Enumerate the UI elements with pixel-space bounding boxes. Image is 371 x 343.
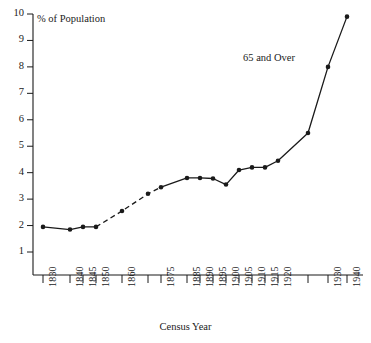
data-point-marker <box>198 176 203 181</box>
data-point-marker <box>224 182 229 187</box>
data-point-marker <box>250 165 255 170</box>
data-point-marker <box>237 168 242 173</box>
data-point-marker <box>211 176 216 181</box>
data-point-marker <box>146 192 151 197</box>
data-point-marker <box>326 65 331 70</box>
data-point-marker <box>81 225 86 230</box>
data-point-marker <box>345 14 350 19</box>
data-point-markers <box>41 14 350 231</box>
y-axis-ticks <box>27 14 33 252</box>
data-point-marker <box>68 227 73 232</box>
data-line-segment-dashed <box>96 187 161 227</box>
data-point-marker <box>120 209 125 214</box>
data-point-marker <box>41 225 46 230</box>
data-point-marker <box>94 225 99 230</box>
data-line-segment-solid <box>161 17 347 188</box>
data-point-marker <box>306 131 311 136</box>
axis-lines <box>33 14 363 275</box>
data-point-marker <box>159 185 164 190</box>
plot-area <box>0 0 371 343</box>
data-line-series <box>43 17 347 230</box>
census-population-chart: % of Population 65 and Over Census Year … <box>0 0 371 343</box>
data-point-marker <box>185 176 190 181</box>
x-axis-ticks <box>43 275 347 283</box>
data-point-marker <box>276 158 281 163</box>
data-point-marker <box>263 165 268 170</box>
